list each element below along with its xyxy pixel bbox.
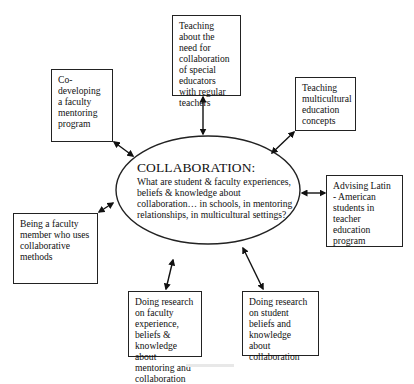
center-node: COLLABORATION: What are student & facult… — [137, 160, 297, 220]
center-question: What are student & faculty experiences, … — [137, 176, 297, 220]
arrow-research-faculty — [166, 260, 173, 289]
node-label: Teaching about the need for collaboratio… — [179, 20, 230, 108]
node-teaching-collaboration: Teaching about the need for collaboratio… — [172, 15, 241, 96]
node-multicultural: Teaching multicultural education concept… — [295, 77, 356, 131]
node-label: Co-developing a faculty mentoring progra… — [58, 74, 101, 129]
node-label: Doing research on student beliefs and kn… — [249, 296, 307, 362]
faded-caption — [186, 364, 234, 367]
node-research-faculty: Doing research on faculty experience, be… — [128, 291, 202, 357]
center-title: COLLABORATION: — [137, 160, 297, 175]
arrow-collaborative-methods — [99, 203, 113, 212]
node-faculty-mentoring: Co-developing a faculty mentoring progra… — [51, 69, 113, 142]
node-label: Teaching multicultural education concept… — [302, 82, 352, 126]
node-research-student: Doing research on student beliefs and kn… — [242, 291, 319, 356]
arrow-multicultural — [272, 132, 294, 153]
arrow-faculty-mentoring — [114, 142, 133, 156]
node-label: Doing research on faculty experience, be… — [135, 296, 193, 384]
node-label: Advising Latin - American students in te… — [333, 180, 391, 246]
node-collaborative-methods: Being a faculty member who uses collabor… — [13, 213, 98, 284]
node-advising: Advising Latin - American students in te… — [326, 175, 403, 247]
node-label: Being a faculty member who uses collabor… — [20, 218, 89, 262]
arrow-research-student — [243, 248, 263, 289]
